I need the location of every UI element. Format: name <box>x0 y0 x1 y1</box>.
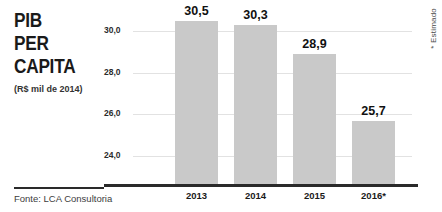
bar-value-label: 30,3 <box>222 8 289 22</box>
bar-value-label: 25,7 <box>340 104 407 118</box>
plot-area: 30,028,026,024,0 30,530,328,925,7 201320… <box>104 0 412 186</box>
bar-value-label: 28,9 <box>281 37 348 51</box>
y-axis-tick-label: 24,0 <box>104 150 130 160</box>
bar <box>352 121 395 184</box>
bar <box>293 54 336 184</box>
x-axis-tick-label: 2016* <box>340 190 407 201</box>
x-axis-tick-label: 2015 <box>281 190 348 201</box>
page-title-line-1: PIB <box>14 8 93 31</box>
estimate-note: * Estimado <box>429 8 438 49</box>
page-title-line-2: PER <box>14 31 93 54</box>
x-axis-line <box>104 184 418 187</box>
bar <box>175 21 218 184</box>
y-axis-tick-label: 30,0 <box>104 25 130 35</box>
y-axis-tick-label: 28,0 <box>104 67 130 77</box>
page-title-line-3: CAPITA <box>14 54 93 77</box>
chart-figure: PIB PER CAPITA (R$ mil de 2014) 30,028,0… <box>0 0 442 212</box>
bar-value-label: 30,5 <box>163 4 230 18</box>
bar <box>234 25 277 184</box>
y-axis-tick-label: 26,0 <box>104 108 130 118</box>
x-axis-tick-label: 2014 <box>222 190 289 201</box>
x-axis-tick-label: 2013 <box>163 190 230 201</box>
chart-title-block: PIB PER CAPITA (R$ mil de 2014) <box>14 8 110 94</box>
footer-divider <box>14 187 104 189</box>
chart-subtitle: (R$ mil de 2014) <box>14 84 110 94</box>
source-label: Fonte: LCA Consultoria <box>14 193 112 204</box>
